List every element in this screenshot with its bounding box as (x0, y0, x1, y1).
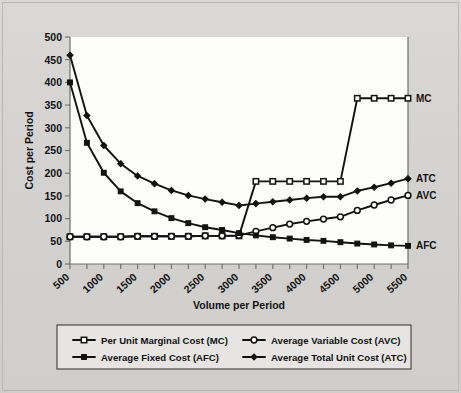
chart-legend: Per Unit Marginal Cost (MC)Average Varia… (57, 325, 411, 369)
x-tick-label: 1000 (80, 270, 106, 295)
y-tick-label: 50 (50, 235, 62, 247)
chart-page: 050100150200250300350400450500 500100015… (0, 0, 461, 393)
series-end-labels: MCATCAVCAFC (416, 93, 437, 252)
data-point (219, 233, 225, 239)
data-point (270, 179, 275, 184)
data-point (405, 193, 411, 199)
data-point (186, 221, 191, 226)
data-point (372, 242, 377, 247)
data-point (202, 233, 208, 239)
data-point (371, 202, 377, 208)
data-point (118, 189, 123, 194)
data-point (321, 179, 326, 184)
x-tick-label: 2500 (181, 270, 207, 295)
data-point (152, 233, 158, 239)
data-point (220, 228, 225, 233)
x-tick-label: 500 (50, 270, 71, 291)
data-point (101, 234, 107, 240)
data-point (355, 241, 360, 246)
x-tick-label: 5000 (350, 270, 376, 295)
legend-label: Average Fixed Cost (AFC) (101, 352, 219, 363)
x-tick-label: 2000 (147, 270, 173, 295)
data-point (304, 238, 309, 243)
data-point (169, 233, 175, 239)
data-point (405, 96, 410, 101)
data-point (389, 243, 394, 248)
data-point (85, 140, 90, 145)
data-point (321, 238, 326, 243)
data-point (287, 221, 293, 227)
x-axis-title: Volume per Period (193, 299, 285, 311)
data-point (185, 233, 191, 239)
data-point (135, 201, 140, 206)
data-point (270, 235, 275, 240)
data-point (270, 225, 276, 231)
x-axis-ticks: 5001000150020002500300035004000450050005… (50, 264, 409, 295)
series-label-afc: AFC (416, 240, 437, 251)
data-point (304, 218, 310, 224)
data-point (338, 214, 344, 220)
data-point (355, 96, 360, 101)
data-point (372, 96, 377, 101)
y-tick-label: 100 (44, 212, 62, 224)
y-tick-label: 200 (44, 167, 62, 179)
plot-area-background (70, 37, 408, 264)
data-point (84, 234, 90, 240)
data-point (101, 170, 106, 175)
data-point (287, 179, 292, 184)
data-point (338, 179, 343, 184)
data-point (237, 231, 242, 236)
data-point (388, 197, 394, 203)
data-point (203, 225, 208, 230)
x-tick-label: 3000 (215, 270, 241, 295)
data-point (68, 80, 73, 85)
data-point (152, 209, 157, 214)
data-point (287, 236, 292, 241)
y-tick-label: 350 (44, 99, 62, 111)
cost-curves-chart: 050100150200250300350400450500 500100015… (0, 0, 461, 393)
data-point (253, 179, 258, 184)
y-tick-label: 400 (44, 76, 62, 88)
y-tick-label: 500 (44, 31, 62, 43)
data-point (354, 208, 360, 214)
x-tick-label: 5500 (384, 270, 410, 295)
y-tick-label: 0 (56, 258, 62, 270)
y-tick-label: 250 (44, 144, 62, 156)
data-point (321, 216, 327, 222)
series-label-atc: ATC (416, 173, 436, 184)
y-tick-label: 300 (44, 122, 62, 134)
data-point (338, 240, 343, 245)
data-point (406, 243, 411, 248)
legend-marker (82, 355, 87, 360)
data-point (169, 216, 174, 221)
data-point (118, 234, 124, 240)
legend-label: Average Variable Cost (AVC) (271, 335, 401, 346)
legend-label: Per Unit Marginal Cost (MC) (101, 335, 228, 346)
x-tick-label: 4000 (283, 270, 309, 295)
y-axis-title: Cost per Period (23, 111, 35, 189)
data-point (135, 233, 141, 239)
y-tick-label: 150 (44, 190, 62, 202)
legend-marker (81, 337, 86, 342)
data-point (67, 234, 73, 240)
data-point (254, 233, 259, 238)
x-tick-label: 3500 (249, 270, 275, 295)
legend-label: Average Total Unit Cost (ATC) (271, 352, 407, 363)
series-label-mc: MC (416, 93, 432, 104)
x-tick-label: 4500 (316, 270, 342, 295)
x-tick-label: 1500 (114, 270, 140, 295)
data-point (388, 96, 393, 101)
y-tick-label: 450 (44, 54, 62, 66)
y-axis-ticks: 050100150200250300350400450500 (44, 31, 70, 270)
series-label-avc: AVC (416, 190, 436, 201)
data-point (304, 179, 309, 184)
legend-marker (251, 337, 257, 343)
